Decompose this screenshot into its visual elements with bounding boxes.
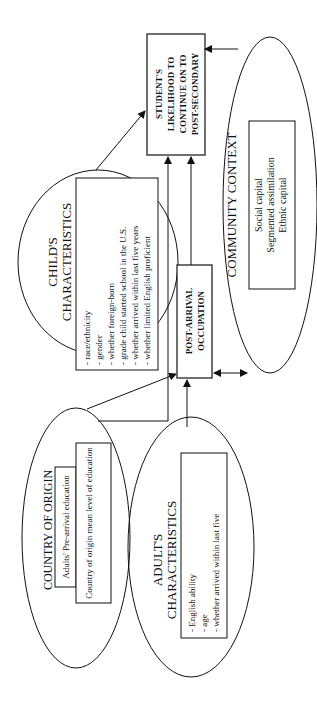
student-outcome-label: LIKELIHOOD TO	[166, 57, 176, 131]
childs-characteristics-item: - gender	[94, 335, 104, 365]
community-context-item: Segmented assimilation	[265, 157, 276, 252]
childs-characteristics-title: CHILD'S	[45, 237, 60, 286]
country-of-origin-item: Adults' Pre-arrival education	[61, 475, 71, 579]
childs-characteristics-item: - grade child started school in the U.S.	[118, 227, 128, 365]
adults-characteristics-node: ADULT'S CHARACTERISTICS - English abilit…	[128, 417, 254, 677]
country-of-origin-title: COUNTRY OF ORIGIN	[41, 470, 55, 591]
childs-characteristics-item: - race/ethnicity	[82, 310, 92, 365]
childs-characteristics-item: - whether arrived within last five years	[130, 225, 140, 365]
childs-characteristics-title: CHARACTERISTICS	[59, 203, 74, 321]
country-of-origin-item: Country of origin mean level of educatio…	[84, 447, 94, 599]
childs-characteristics-node: CHILD'S CHARACTERISTICS - race/ethnicity…	[18, 170, 178, 370]
post-arrival-occupation-node: POST-ARRIVAL OCCUPATION	[177, 265, 212, 378]
community-context-item: Ethnic capital	[277, 177, 288, 232]
post-arrival-occupation-label: OCCUPATION	[196, 290, 206, 351]
student-outcome-label: STUDENT'S	[154, 69, 164, 119]
community-context-title: COMMUNITY CONTEXT	[224, 132, 239, 277]
student-outcome-label: POST-SECONDARY	[190, 52, 200, 135]
adults-characteristics-item: - whether arrived within last five	[211, 514, 221, 632]
arrow-child-to-outcome	[96, 111, 145, 170]
adults-characteristics-title: ADULT'S	[150, 534, 165, 586]
adults-characteristics-item: - English ability	[187, 574, 197, 632]
student-outcome-node: STUDENT'S LIKELIHOOD TO CONTINUE ON TO P…	[147, 34, 205, 155]
student-outcome-label: CONTINUE ON TO	[178, 54, 188, 133]
post-arrival-occupation-label: POST-ARRIVAL	[184, 288, 194, 355]
community-context-node: COMMUNITY CONTEXT Social capital Segment…	[223, 37, 317, 373]
childs-characteristics-item: - whether foreign-born	[106, 283, 116, 365]
adults-characteristics-title: CHARACTERISTICS	[164, 501, 179, 619]
arrow-country-to-occupation	[87, 374, 176, 409]
community-context-item: Social capital	[253, 178, 264, 232]
childs-characteristics-item: - whether limited English proficient	[142, 236, 152, 365]
country-of-origin-node: COUNTRY OF ORIGIN Adults' Pre-arrival ed…	[22, 408, 130, 668]
adults-characteristics-item: - age	[199, 614, 209, 632]
conceptual-model-diagram: COMMUNITY CONTEXT Social capital Segment…	[0, 0, 317, 706]
